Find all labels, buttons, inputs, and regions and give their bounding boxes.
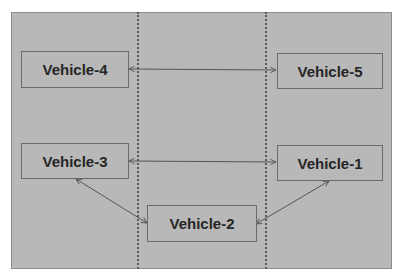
node-vehicle-3[interactable]: Vehicle-3 [21, 143, 129, 179]
lane-divider-right [265, 12, 267, 269]
node-label: Vehicle-2 [169, 215, 234, 232]
node-label: Vehicle-1 [297, 155, 362, 172]
node-label: Vehicle-4 [42, 61, 107, 78]
node-vehicle-2[interactable]: Vehicle-2 [147, 205, 257, 242]
lane-divider-left [137, 12, 139, 269]
node-vehicle-5[interactable]: Vehicle-5 [277, 53, 383, 89]
node-vehicle-4[interactable]: Vehicle-4 [21, 51, 129, 88]
node-label: Vehicle-3 [42, 153, 107, 170]
diagram-canvas: Vehicle-4 Vehicle-5 Vehicle-3 Vehicle-1 … [0, 0, 399, 280]
node-vehicle-1[interactable]: Vehicle-1 [277, 145, 383, 181]
node-label: Vehicle-5 [297, 63, 362, 80]
